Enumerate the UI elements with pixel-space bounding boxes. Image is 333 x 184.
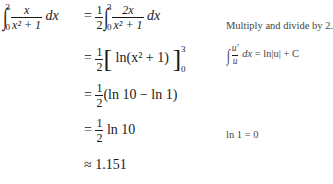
- denominator: 2: [95, 17, 103, 31]
- equals-sign: =: [84, 87, 92, 102]
- integrand-fraction: xx² + 1: [11, 4, 42, 31]
- integrand-fraction: 2xx² + 1: [112, 4, 143, 31]
- final-value: 1.151: [95, 157, 127, 172]
- left-bracket: [: [103, 44, 112, 73]
- differential: dx: [242, 48, 252, 59]
- denominator: 2: [95, 130, 103, 144]
- numerator: 1: [95, 117, 103, 130]
- integral-sign: ∫: [227, 47, 230, 64]
- note-multiply-divide: Multiply and divide by 2.: [226, 20, 333, 31]
- line-5-rhs: ≈ 1.151: [84, 157, 127, 173]
- denominator: x² + 1: [112, 17, 143, 31]
- numerator: x: [23, 4, 30, 17]
- line-2-rhs: = 12[ ln(x² + 1) ]30: [84, 44, 187, 74]
- line-4-rhs: = 12 ln 10: [84, 117, 135, 144]
- numerator: 1: [95, 4, 103, 17]
- coefficient-fraction: 12: [95, 117, 103, 144]
- denominator: x² + 1: [11, 17, 42, 31]
- differential: dx: [46, 8, 59, 23]
- evaluation-limits: 30: [181, 44, 186, 74]
- line-1-lhs: ∫30xx² + 1 dx: [2, 2, 59, 32]
- note-log-rule: ∫u′u dx = ln|u| + C: [226, 44, 299, 66]
- equals-sign: =: [84, 50, 92, 65]
- equals-sign: =: [84, 122, 92, 137]
- antiderivative: ln(x² + 1): [116, 50, 169, 65]
- upper-limit: 3: [181, 44, 186, 54]
- integral-sign: ∫: [3, 5, 8, 29]
- integral-sign: ∫: [104, 5, 109, 29]
- numerator: 2x: [121, 4, 134, 17]
- lower-limit: 0: [181, 64, 186, 74]
- right-bracket: ]: [172, 44, 181, 73]
- log-difference: (ln 10 − ln 1): [103, 87, 177, 102]
- numerator: u′: [231, 44, 240, 55]
- approx-sign: ≈: [84, 157, 92, 172]
- denominator: u: [232, 55, 239, 67]
- log-rule-result: = ln|u| + C: [255, 48, 299, 59]
- u-prime-over-u: u′u: [231, 44, 240, 66]
- coefficient-fraction: 12: [95, 4, 103, 31]
- log-ten: ln 10: [107, 122, 135, 137]
- differential: dx: [147, 8, 160, 23]
- equals-sign: =: [84, 8, 92, 23]
- line-1-rhs: = 12∫302xx² + 1 dx: [84, 2, 160, 32]
- line-3-rhs: = 12(ln 10 − ln 1): [84, 82, 177, 109]
- note-ln-one: ln 1 = 0: [226, 129, 258, 140]
